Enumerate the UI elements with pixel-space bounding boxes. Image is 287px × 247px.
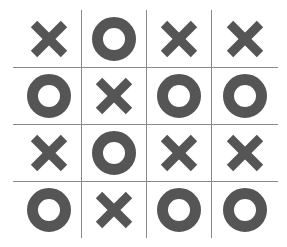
x-mark-icon	[224, 19, 266, 59]
x-mark-icon	[158, 133, 200, 173]
board-cell-r2-c1-o[interactable]	[16, 68, 81, 124]
o-mark-icon	[92, 131, 136, 175]
board-cell-r4-c1-o[interactable]	[16, 182, 81, 238]
board-cell-r3-c4-x[interactable]	[212, 125, 277, 181]
board-cell-r4-c4-o[interactable]	[212, 182, 277, 238]
board-cell-r1-c4-x[interactable]	[212, 10, 277, 67]
x-mark-icon	[28, 133, 70, 173]
o-mark-icon	[223, 188, 267, 232]
board-cell-r4-c2-x[interactable]	[82, 182, 146, 238]
o-mark-icon	[223, 74, 267, 118]
board-cell-r1-c2-o[interactable]	[82, 10, 146, 67]
x-mark-icon	[28, 19, 70, 59]
o-mark-icon	[92, 17, 136, 61]
board-cell-r3-c2-o[interactable]	[82, 125, 146, 181]
x-mark-icon	[93, 76, 135, 116]
board-cell-r1-c1-x[interactable]	[16, 10, 81, 67]
o-mark-icon	[157, 188, 201, 232]
board-cell-r2-c3-o[interactable]	[147, 68, 211, 124]
game-board	[0, 0, 287, 247]
board-cell-r2-c2-x[interactable]	[82, 68, 146, 124]
board-cell-r4-c3-o[interactable]	[147, 182, 211, 238]
board-cell-r2-c4-o[interactable]	[212, 68, 277, 124]
x-mark-icon	[224, 133, 266, 173]
o-mark-icon	[27, 74, 71, 118]
x-mark-icon	[158, 19, 200, 59]
o-mark-icon	[157, 74, 201, 118]
x-mark-icon	[93, 190, 135, 230]
board-cell-r1-c3-x[interactable]	[147, 10, 211, 67]
board-cell-r3-c1-x[interactable]	[16, 125, 81, 181]
board-cell-r3-c3-x[interactable]	[147, 125, 211, 181]
o-mark-icon	[27, 188, 71, 232]
